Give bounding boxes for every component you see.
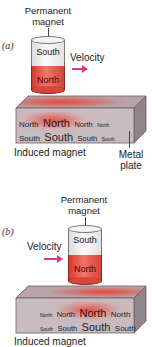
magnet-top-face bbox=[68, 225, 102, 233]
plate-south-row-b: South South South South bbox=[40, 317, 136, 335]
south-label: South bbox=[82, 321, 111, 333]
magnet-top-face bbox=[31, 36, 65, 44]
induced-magnet-label-b: Induced magnet bbox=[14, 336, 86, 347]
south-label: South bbox=[115, 324, 136, 333]
south-label: South bbox=[40, 326, 53, 332]
south-label: South bbox=[58, 324, 78, 333]
